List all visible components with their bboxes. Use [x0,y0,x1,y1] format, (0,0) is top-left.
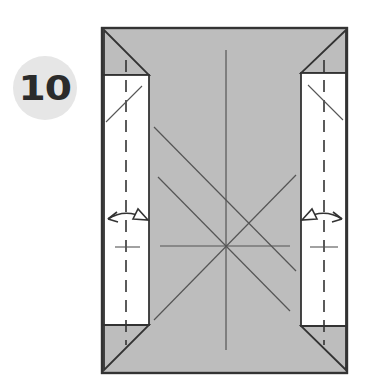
origami-step-diagram: 10 [0,0,370,385]
left-flap [104,30,149,370]
folded-paper-diagram [0,0,370,385]
right-flap [301,30,346,370]
